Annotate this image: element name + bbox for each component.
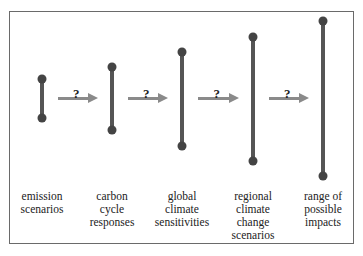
question-mark-label: ? bbox=[284, 86, 291, 102]
label-line: cycle bbox=[72, 203, 152, 216]
range-top-dot-icon bbox=[108, 63, 117, 72]
question-mark-label: ? bbox=[143, 86, 150, 102]
stage-label-emission-scenarios: emission scenarios bbox=[2, 190, 82, 216]
label-line: responses bbox=[72, 216, 152, 229]
range-bottom-dot-icon bbox=[108, 126, 117, 135]
question-mark-label: ? bbox=[73, 86, 80, 102]
label-line: range of bbox=[283, 190, 363, 203]
label-line: climate bbox=[213, 203, 293, 216]
label-line: possible bbox=[283, 203, 363, 216]
label-line: sensitivities bbox=[142, 216, 222, 229]
range-top-dot-icon bbox=[178, 48, 187, 57]
arrow-right-icon: ? bbox=[58, 92, 98, 104]
label-line: climate bbox=[142, 203, 222, 216]
label-line: impacts bbox=[283, 216, 363, 229]
arrow-right-icon: ? bbox=[198, 92, 239, 104]
label-line: change bbox=[213, 216, 293, 229]
label-line: global bbox=[142, 190, 222, 203]
range-top-dot-icon bbox=[38, 75, 47, 84]
range-bottom-dot-icon bbox=[178, 142, 187, 151]
stage-label-global-climate-sensitivities: global climate sensitivities bbox=[142, 190, 222, 229]
label-line: emission bbox=[2, 190, 82, 203]
stage-label-range-of-possible-impacts: range of possible impacts bbox=[283, 190, 363, 229]
label-line: scenarios bbox=[2, 203, 82, 216]
uncertainty-range-bar bbox=[180, 52, 184, 146]
label-line: carbon bbox=[72, 190, 152, 203]
range-bottom-dot-icon bbox=[319, 172, 328, 181]
range-top-dot-icon bbox=[249, 33, 258, 42]
stage-label-regional-climate-change-scenarios: regional climate change scenarios bbox=[213, 190, 293, 242]
uncertainty-range-bar bbox=[251, 37, 255, 161]
range-bottom-dot-icon bbox=[249, 157, 258, 166]
arrow-right-icon: ? bbox=[269, 92, 309, 104]
uncertainty-range-bar bbox=[40, 79, 44, 118]
arrow-right-icon: ? bbox=[128, 92, 168, 104]
label-line: scenarios bbox=[213, 229, 293, 242]
range-top-dot-icon bbox=[319, 17, 328, 26]
stage-label-carbon-cycle-responses: carbon cycle responses bbox=[72, 190, 152, 229]
uncertainty-range-bar bbox=[321, 21, 325, 176]
question-mark-label: ? bbox=[214, 86, 221, 102]
range-bottom-dot-icon bbox=[38, 114, 47, 123]
label-line: regional bbox=[213, 190, 293, 203]
uncertainty-range-bar bbox=[110, 67, 114, 130]
